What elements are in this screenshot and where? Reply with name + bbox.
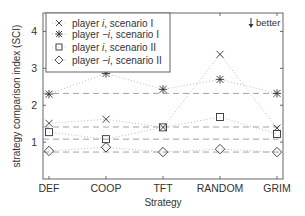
legend-label-part: , scenario I <box>110 29 159 40</box>
star-marker-icon <box>216 75 224 83</box>
legend-entry-label: player −i, scenario I <box>72 29 159 40</box>
series-line <box>49 147 277 152</box>
x-axis-label: Strategy <box>144 197 181 208</box>
sci-line-chart: strategy comparison index (SCI) 1234DEFC… <box>0 0 305 216</box>
y-tick-label: 1 <box>31 136 37 148</box>
star-marker-icon <box>159 85 167 93</box>
legend-label-part: , scenario II <box>110 55 162 66</box>
down-arrow-head-icon <box>249 24 254 28</box>
y-tick-label: 2 <box>31 99 37 111</box>
legend-label-part: player <box>72 29 102 40</box>
legend-entry-label: player i, scenario II <box>72 42 156 53</box>
y-axis-label: strategy comparison index (SCI) <box>11 25 22 168</box>
series-line <box>49 117 277 139</box>
legend-label-part: , scenario I <box>104 18 153 29</box>
legend-label-part: player <box>72 42 102 53</box>
y-tick-label: 4 <box>31 25 37 37</box>
legend-label-part: , scenario II <box>104 42 156 53</box>
x-marker-icon <box>46 120 53 127</box>
x-tick-label: COOP <box>91 182 122 194</box>
x-tick-label: GRIM <box>263 182 290 194</box>
legend: player i, scenario Iplayer −i, scenario … <box>46 13 170 72</box>
x-marker-icon <box>217 51 224 58</box>
star-marker-icon <box>273 89 281 97</box>
x-tick-label: RANDOM <box>197 182 244 194</box>
star-marker-icon <box>45 90 53 98</box>
star-marker-icon <box>55 30 62 37</box>
x-tick-label: TFT <box>153 182 173 194</box>
square-marker-icon <box>274 130 281 137</box>
legend-label-part: player <box>72 55 102 66</box>
better-label: better <box>256 17 280 28</box>
square-shape <box>274 130 281 137</box>
better-annotation: better <box>249 17 281 28</box>
legend-entry-label: player −i, scenario II <box>72 55 162 66</box>
x-tick-label: DEF <box>39 182 60 194</box>
y-axis-label-text: strategy comparison index (SCI) <box>11 25 22 168</box>
y-tick-label: 3 <box>31 62 37 74</box>
legend-label-part: player <box>72 18 102 29</box>
plot-area: 1234DEFCOOPTFTRANDOMGRIMplayer i, scenar… <box>31 13 291 194</box>
legend-entry-label: player i, scenario I <box>72 18 153 29</box>
diamond-shape <box>101 143 110 152</box>
diamond-marker-icon <box>101 143 110 152</box>
